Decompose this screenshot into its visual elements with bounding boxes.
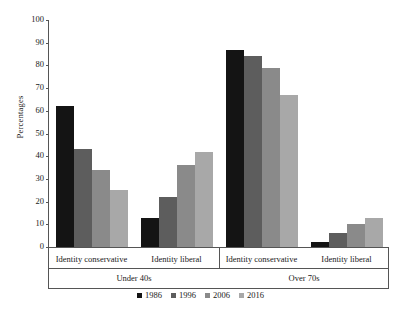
category-label-3: Identity liberal <box>304 250 389 268</box>
legend-item-1996[interactable]: 1996 <box>171 290 196 300</box>
bar-2006-1 <box>177 165 195 247</box>
bar-1986-0 <box>56 106 74 247</box>
category-axis: Identity conservativeIdentity liberalIde… <box>48 248 389 289</box>
legend-swatch-icon <box>205 293 210 298</box>
legend-label: 1996 <box>179 290 196 300</box>
bar-2006-3 <box>347 224 365 247</box>
bar-2016-0 <box>110 190 128 247</box>
bar-1986-1 <box>141 218 159 248</box>
y-tick-label: 50 <box>36 128 45 138</box>
y-tick-label: 60 <box>36 105 45 115</box>
bar-1986-3 <box>311 242 329 247</box>
category-label-1: Identity liberal <box>134 250 219 268</box>
bar-1996-1 <box>159 197 177 247</box>
bar-group-2 <box>226 20 298 247</box>
y-tick-label: 0 <box>40 241 44 251</box>
y-tick-label: 70 <box>36 82 45 92</box>
bar-1996-0 <box>74 149 92 247</box>
bar-2016-3 <box>365 218 383 248</box>
category-group-divider <box>219 248 220 268</box>
y-tick-label: 30 <box>36 173 45 183</box>
y-tick-label: 90 <box>36 37 45 47</box>
legend-label: 1986 <box>145 290 162 300</box>
bar-2006-2 <box>262 68 280 247</box>
y-tick-label: 10 <box>36 218 45 228</box>
bar-group-3 <box>311 20 383 247</box>
bar-chart: Percentages 0102030405060708090100 Ident… <box>0 0 401 311</box>
bar-2016-1 <box>195 152 213 247</box>
bar-groups <box>49 20 389 247</box>
bar-1986-2 <box>226 50 244 247</box>
bar-group-1 <box>141 20 213 247</box>
legend-swatch-icon <box>171 293 176 298</box>
y-tick-label: 100 <box>31 14 44 24</box>
bar-group-0 <box>56 20 128 247</box>
plot-area: 0102030405060708090100 <box>48 20 389 248</box>
legend-item-1986[interactable]: 1986 <box>137 290 162 300</box>
legend-label: 2016 <box>247 290 264 300</box>
y-axis-label: Percentages <box>15 72 25 162</box>
legend-item-2016[interactable]: 2016 <box>239 290 264 300</box>
legend-swatch-icon <box>239 293 244 298</box>
group-label-0: Under 40s <box>49 269 219 288</box>
y-tick-label: 20 <box>36 196 45 206</box>
category-label-2: Identity conservative <box>219 250 304 268</box>
y-tick-label: 40 <box>36 150 45 160</box>
legend-label: 2006 <box>213 290 230 300</box>
legend-swatch-icon <box>137 293 142 298</box>
bar-1996-2 <box>244 56 262 247</box>
legend-item-2006[interactable]: 2006 <box>205 290 230 300</box>
bar-2006-0 <box>92 170 110 247</box>
bar-2016-2 <box>280 95 298 247</box>
category-label-0: Identity conservative <box>49 250 134 268</box>
chart-legend: 1986199620062016 <box>0 290 401 300</box>
group-label-1: Over 70s <box>219 269 389 288</box>
y-tick-label: 80 <box>36 59 45 69</box>
bar-1996-3 <box>329 233 347 247</box>
